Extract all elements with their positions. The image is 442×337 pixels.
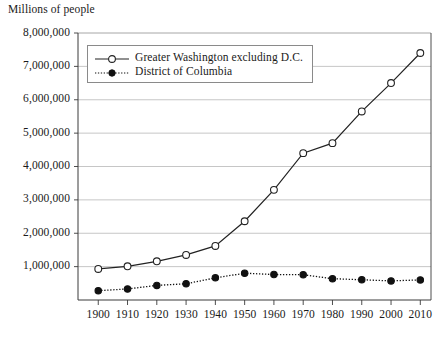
legend-marker-filled-circle-icon — [94, 65, 130, 77]
chart-legend: Greater Washington excluding D.C. Distri… — [87, 45, 313, 83]
legend-item-district-of-columbia: District of Columbia — [94, 64, 303, 78]
y-tick-label: 8,000,000 — [2, 26, 70, 38]
y-tick-label: 4,000,000 — [2, 159, 70, 171]
population-line-chart: Millions of people 1,000,0002,000,0003,0… — [0, 0, 442, 337]
y-tick-label: 5,000,000 — [2, 126, 70, 138]
y-tick-label: 3,000,000 — [2, 192, 70, 204]
series-layer — [95, 50, 424, 294]
legend-marker-open-circle-icon — [94, 51, 130, 63]
x-tick-marks — [98, 300, 420, 305]
y-tick-label: 1,000,000 — [2, 259, 70, 271]
y-tick-label: 7,000,000 — [2, 59, 70, 71]
x-tick-label: 2010 — [403, 308, 437, 320]
legend-label-district-of-columbia: District of Columbia — [135, 65, 232, 77]
y-tick-label: 6,000,000 — [2, 92, 70, 104]
legend-item-greater-washington: Greater Washington excluding D.C. — [94, 50, 303, 64]
y-tick-marks — [74, 33, 78, 267]
y-tick-label: 2,000,000 — [2, 226, 70, 238]
legend-label-greater-washington: Greater Washington excluding D.C. — [135, 51, 303, 63]
